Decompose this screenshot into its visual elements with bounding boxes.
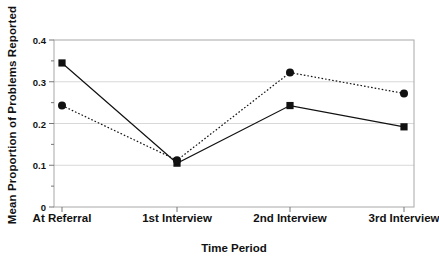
x-axis-category-label: At Referral [33, 212, 92, 224]
series-line-2 [62, 73, 404, 161]
x-axis-category-label: 3rd Interview [369, 212, 439, 224]
y-axis-tick-label: 0.3 [20, 76, 46, 87]
y-axis-tick-label: 0.2 [20, 118, 46, 129]
data-point-marker [58, 102, 66, 110]
x-axis-category-label: 1st Interview [142, 212, 212, 224]
data-point-marker [286, 102, 293, 109]
y-axis-tick-label: 0.4 [20, 35, 46, 46]
x-axis-category-label: 2nd Interview [253, 212, 327, 224]
data-point-marker [173, 156, 181, 164]
series-line-1 [62, 63, 404, 163]
y-axis-tick-label: 0.1 [20, 160, 46, 171]
data-point-marker [286, 69, 294, 77]
data-point-marker [400, 123, 407, 130]
y-axis-tick-label: 0 [20, 202, 46, 213]
data-point-marker [400, 89, 408, 97]
x-axis-title: Time Period [54, 242, 414, 254]
data-point-marker [58, 59, 65, 66]
